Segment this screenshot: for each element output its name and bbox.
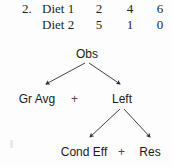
tree-node-left: Left (104, 92, 140, 106)
tree-node-obs: Obs (66, 47, 108, 61)
arrow-left-to-res (124, 109, 150, 137)
tree-node-cond-eff: Cond Eff (57, 145, 111, 159)
tree-node-gr-avg: Gr Avg (10, 92, 64, 106)
arrow-obs-to-gr-avg (46, 63, 85, 84)
operator-plus-level-1: + (71, 92, 78, 106)
decomposition-tree-arrows (0, 0, 172, 167)
arrow-left-to-cond-eff (90, 109, 120, 137)
scan-artifact (10, 140, 13, 148)
tree-node-res: Res (135, 145, 165, 159)
arrow-obs-to-left (89, 63, 120, 84)
operator-plus-level-2: + (118, 145, 125, 159)
exercise-figure: 2. Diet 1 2 4 6 Diet 2 5 1 0 Obs Gr A (0, 0, 172, 167)
